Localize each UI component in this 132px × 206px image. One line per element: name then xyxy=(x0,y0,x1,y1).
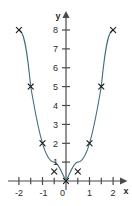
chart-plot-area: 8 7 6 5 4 3 2 1 -2 -1 1 2 0 y x xyxy=(0,0,132,206)
y-tick-label-8: 8 xyxy=(53,25,58,35)
data-point-marker xyxy=(16,27,21,32)
data-point-marker xyxy=(75,169,80,174)
y-axis-label: y xyxy=(55,11,60,21)
y-tick-label-1: 1 xyxy=(53,157,58,167)
x-tick-label--1: -1 xyxy=(39,188,47,198)
x-tick-label-1: 1 xyxy=(87,188,92,198)
x-axis-label: x xyxy=(123,186,128,196)
origin-label: 0 xyxy=(60,188,65,198)
parabola-chart: 8 7 6 5 4 3 2 1 -2 -1 1 2 0 y x xyxy=(0,0,132,206)
data-point-marker xyxy=(52,169,57,174)
x-tick-label--2: -2 xyxy=(15,188,23,198)
y-tick-label-4: 4 xyxy=(53,101,58,111)
x-tick-label-group: -2 -1 1 2 xyxy=(15,188,116,198)
axis-group xyxy=(8,11,128,190)
x-tick-label-2: 2 xyxy=(111,188,116,198)
y-tick-label-7: 7 xyxy=(53,44,58,54)
y-tick-label-3: 3 xyxy=(53,120,58,130)
x-axis-arrow-icon xyxy=(120,177,128,184)
data-point-marker xyxy=(111,27,116,32)
y-tick-label-2: 2 xyxy=(53,139,58,149)
y-tick-label-6: 6 xyxy=(53,63,58,73)
y-tick-label-group: 8 7 6 5 4 3 2 1 xyxy=(53,25,58,167)
y-axis-arrow-icon xyxy=(62,11,69,18)
y-tick-label-5: 5 xyxy=(53,82,58,92)
